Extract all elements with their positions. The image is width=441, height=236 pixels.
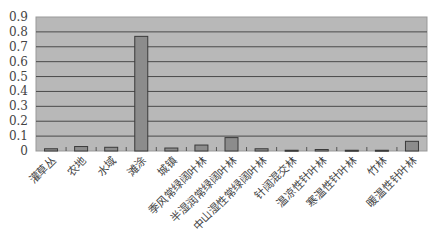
bar	[345, 150, 358, 151]
x-tick-label: 水域	[95, 154, 120, 179]
bar-chart: 00.10.20.30.40.50.60.70.80.9 灌草丛农地水域滩涂城镇…	[0, 0, 441, 236]
plot-area	[36, 17, 427, 151]
x-tick-label: 竹林	[365, 153, 390, 178]
y-tick-label: 0.2	[9, 114, 28, 128]
y-tick-label: 0.5	[9, 70, 28, 84]
bar	[285, 150, 298, 151]
bar	[105, 147, 118, 151]
y-tick-label: 0.8	[9, 25, 28, 39]
bar	[255, 149, 268, 151]
bar	[375, 150, 388, 151]
x-tick-label: 城镇	[154, 153, 179, 178]
y-tick-label: 0.1	[9, 129, 28, 143]
bar	[165, 148, 178, 151]
x-tick-label: 灌草丛	[27, 154, 60, 187]
y-tick-label: 0.9	[9, 10, 28, 24]
y-tick-label: 0	[20, 144, 28, 158]
bar	[225, 138, 238, 151]
bar	[75, 147, 88, 151]
y-tick-label: 0.7	[9, 40, 28, 54]
y-tick-label: 0.3	[9, 99, 28, 113]
x-tick-label: 滩涂	[124, 153, 149, 178]
bar	[45, 149, 58, 151]
x-tick-label: 农地	[64, 153, 89, 178]
x-axis-labels: 灌草丛农地水域滩涂城镇季风常绿阔叶林半湿润常绿阔叶林中山湿性常绿阔叶林针阔混交林…	[27, 153, 420, 233]
bar	[405, 141, 418, 151]
y-axis-ticks: 00.10.20.30.40.50.60.70.80.9	[9, 10, 28, 158]
y-tick-label: 0.4	[9, 84, 28, 98]
y-tick-label: 0.6	[9, 55, 28, 69]
bar	[135, 36, 148, 151]
bar	[195, 145, 208, 151]
bar	[315, 150, 328, 151]
